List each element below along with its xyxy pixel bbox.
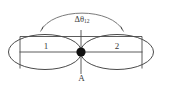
angle-label-symbol: Δθ	[74, 14, 84, 24]
vertex-label: A	[78, 73, 85, 83]
vertex-dot	[76, 47, 85, 56]
lobe-2-label: 2	[115, 41, 120, 51]
angle-label-subscript: 12	[84, 18, 90, 24]
diagram-svg: 1 2 A Δθ12	[0, 0, 169, 90]
lobe-1-label: 1	[44, 41, 49, 51]
figure-canvas: 1 2 A Δθ12	[0, 0, 169, 90]
angle-label-group: Δθ12	[74, 14, 89, 25]
angle-arc-arrowhead-left	[39, 25, 44, 33]
angle-arc-arrowhead-right	[120, 25, 125, 33]
